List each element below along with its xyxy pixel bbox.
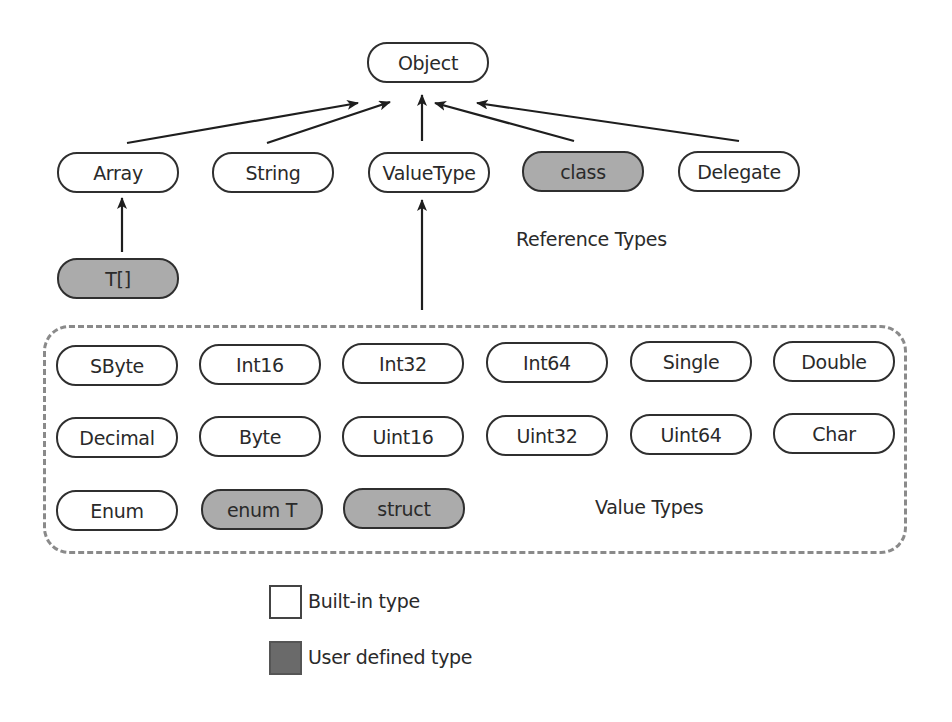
node-int16: Int16 [199,344,321,385]
arrow-string-to-object [267,102,390,143]
legend-builtin-label: Built-in type [308,590,420,612]
node-enum-t: enum T [201,489,323,530]
reference-types-label: Reference Types [516,228,667,250]
node-delegate: Delegate [678,151,800,192]
node-label: Byte [239,426,281,448]
arrow-class-to-object [435,103,574,141]
node-valuetype: ValueType [368,152,490,193]
node-sbyte: SByte [56,345,178,386]
node-array: Array [57,152,179,193]
node-label: Enum [90,500,143,522]
node-object: Object [367,42,489,83]
node-string: String [212,152,334,193]
node-int32: Int32 [342,343,464,384]
arrow-delegate-to-object [477,103,739,141]
legend-builtin-swatch [269,585,302,619]
arrow-array-to-object [127,103,358,143]
node-decimal: Decimal [56,417,178,458]
node-label: SByte [90,355,144,377]
node-int64: Int64 [486,342,608,383]
node-label: Uint32 [516,425,577,447]
node-label: Int64 [523,352,571,374]
node-label: Object [398,52,458,74]
legend-user-label: User defined type [308,646,472,668]
node-label: class [560,161,606,183]
node-label: Int16 [236,354,284,376]
node-label: Char [812,423,856,445]
node-uint64: Uint64 [630,414,752,455]
node-class: class [522,151,644,192]
node-struct: struct [343,488,465,529]
node-label: Double [801,351,867,373]
legend-user-swatch [269,641,302,675]
node-label: T[] [105,268,131,290]
node-label: Decimal [79,427,154,449]
node-label: Int32 [379,353,427,375]
node-uint16: Uint16 [342,416,464,457]
node-tarray: T[] [57,258,179,299]
node-label: struct [377,498,430,520]
node-char: Char [773,413,895,454]
node-uint32: Uint32 [486,415,608,456]
node-label: Single [663,351,720,373]
value-types-label: Value Types [595,496,703,518]
node-label: ValueType [382,162,475,184]
node-label: Uint16 [372,426,433,448]
node-label: String [246,162,301,184]
node-double: Double [773,341,895,382]
node-byte: Byte [199,416,321,457]
node-label: Delegate [697,161,781,183]
node-enum: Enum [56,490,178,531]
node-label: enum T [227,499,297,521]
node-single: Single [630,341,752,382]
node-label: Uint64 [660,424,721,446]
node-label: Array [93,162,143,184]
